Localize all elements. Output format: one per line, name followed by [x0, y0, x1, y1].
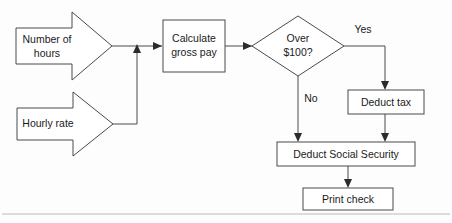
connector-rate-to-junction: [113, 52, 137, 124]
input-hours-shape: [16, 12, 112, 80]
node-print-check[interactable]: Print check: [303, 188, 393, 210]
edge-label-no: No: [304, 92, 318, 104]
arrowhead-tax-into-social-security: [381, 133, 389, 142]
input-hours-label-line1: Number of: [22, 33, 71, 45]
deduct-social-security-label: Deduct Social Security: [293, 148, 399, 160]
flowchart-svg: Number of hours Hourly rate Calculate gr…: [0, 0, 452, 223]
arrowhead-rate-junction: [133, 44, 141, 53]
input-hours-label-line2: hours: [34, 47, 60, 59]
flowchart-canvas: Number of hours Hourly rate Calculate gr…: [0, 0, 452, 223]
node-deduct-tax[interactable]: Deduct tax: [348, 90, 424, 114]
arrowhead-no-into-social-security: [294, 133, 302, 142]
node-input-rate[interactable]: Hourly rate: [17, 92, 113, 156]
node-decision-over-100[interactable]: Over $100?: [252, 16, 344, 76]
edge-label-yes: Yes: [354, 23, 371, 35]
input-rate-label-line1: Hourly rate: [22, 117, 74, 129]
arrowhead-into-decision: [243, 42, 252, 50]
arrowhead-into-deduct-tax: [381, 81, 389, 90]
node-calculate-gross-pay[interactable]: Calculate gross pay: [163, 20, 225, 72]
calculate-gross-pay-label-line1: Calculate: [172, 32, 216, 44]
arrowhead-into-print-check: [344, 179, 352, 188]
decision-over-100-label-line1: Over: [287, 32, 310, 44]
node-deduct-social-security[interactable]: Deduct Social Security: [277, 142, 415, 166]
arrowhead-into-calculate: [153, 42, 162, 50]
deduct-tax-label: Deduct tax: [361, 96, 412, 108]
decision-over-100-label-line2: $100?: [283, 46, 312, 58]
node-input-hours[interactable]: Number of hours: [16, 12, 112, 80]
print-check-label: Print check: [322, 193, 375, 205]
connector-yes-to-deduct-tax: [344, 46, 385, 82]
calculate-gross-pay-label-line2: gross pay: [171, 46, 217, 58]
